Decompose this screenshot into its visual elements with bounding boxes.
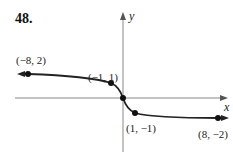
left-arrow-icon <box>17 71 25 77</box>
x-axis-label: x <box>223 100 230 114</box>
label-neg8-2: (−8, 2) <box>16 54 46 67</box>
point-neg8-2 <box>25 71 31 77</box>
label-1-neg1: (1, −1) <box>126 122 156 135</box>
y-axis-label: y <box>128 9 135 23</box>
point-origin <box>120 95 126 101</box>
cube-root-graph: x y (−8, 2) (−1, 1) (1, −1) (8, −2) <box>0 0 233 156</box>
point-1-neg1 <box>132 110 138 116</box>
label-8-neg2: (8, −2) <box>198 128 228 141</box>
point-8-neg2 <box>215 115 221 121</box>
right-arrow-icon <box>221 115 229 121</box>
label-neg1-1: (−1, 1) <box>88 71 118 84</box>
